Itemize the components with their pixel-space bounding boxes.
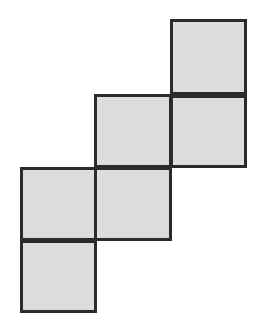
square-left-upper (22, 169, 96, 240)
square-center-upper (96, 96, 171, 167)
staircase-squares-figure: Staircase arrangement of six congruent s… (0, 0, 260, 331)
figure-canvas: Staircase arrangement of six congruent s… (0, 0, 260, 331)
square-right-middle (172, 97, 246, 167)
square-left-lower (22, 242, 96, 312)
square-top-right (172, 21, 246, 94)
square-center-lower (96, 169, 171, 240)
